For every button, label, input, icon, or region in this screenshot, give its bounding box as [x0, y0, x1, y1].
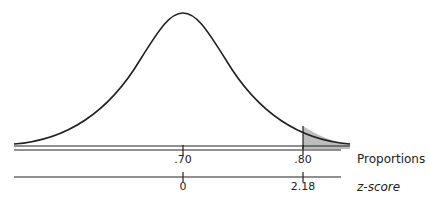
tick-label-prop-80: .80 — [294, 153, 312, 166]
normal-curve-diagram — [0, 0, 429, 204]
tick-label-z-0: 0 — [180, 180, 187, 193]
tick-label-prop-70: .70 — [174, 153, 192, 166]
axis-label-z-score: z-score — [357, 180, 400, 194]
tick-label-z-218: 2.18 — [291, 180, 316, 193]
normal-curve — [14, 13, 350, 144]
axis-label-proportions: Proportions — [357, 152, 425, 166]
